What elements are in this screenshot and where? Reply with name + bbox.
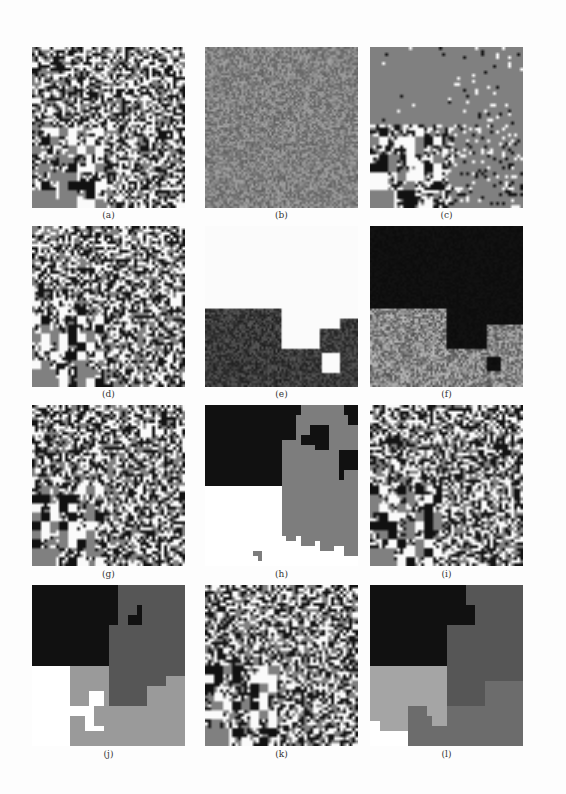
panel-g	[32, 405, 185, 566]
black-top-image	[370, 226, 523, 387]
segmentation-image	[370, 585, 523, 746]
caption-a: (a)	[32, 210, 185, 220]
caption-b: (b)	[205, 210, 358, 220]
caption-f: (f)	[370, 389, 523, 399]
panel-a	[32, 47, 185, 208]
noise-image	[32, 405, 185, 566]
caption-l: (l)	[370, 749, 523, 759]
segmentation-image	[32, 585, 185, 746]
panel-d	[32, 226, 185, 387]
noise-image	[370, 405, 523, 566]
caption-d: (d)	[32, 389, 185, 399]
noise-image	[205, 585, 358, 746]
noise-image	[32, 47, 185, 208]
panel-i	[370, 405, 523, 566]
gray-noise-image	[205, 47, 358, 208]
panel-e	[205, 226, 358, 387]
caption-e: (e)	[205, 389, 358, 399]
panel-b	[205, 47, 358, 208]
panel-f	[370, 226, 523, 387]
noise-image	[32, 226, 185, 387]
segmentation-image	[205, 405, 358, 566]
dark-region-image	[205, 226, 358, 387]
caption-k: (k)	[205, 749, 358, 759]
panel-k	[205, 585, 358, 746]
sparse-noise-image	[370, 47, 523, 208]
panel-h	[205, 405, 358, 566]
panel-l	[370, 585, 523, 746]
panel-j	[32, 585, 185, 746]
caption-c: (c)	[370, 210, 523, 220]
caption-h: (h)	[205, 569, 358, 579]
caption-j: (j)	[32, 749, 185, 759]
caption-i: (i)	[370, 569, 523, 579]
caption-g: (g)	[32, 569, 185, 579]
panel-c	[370, 47, 523, 208]
